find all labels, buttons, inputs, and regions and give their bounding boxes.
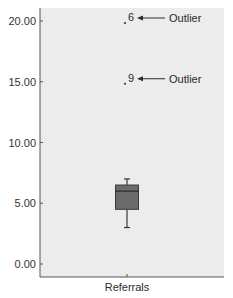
- outlier-case-label: 6: [128, 11, 134, 23]
- y-tick-label: 15.00: [8, 76, 36, 88]
- outlier-dot: [124, 83, 126, 85]
- box-plot-chart: 0.005.0010.0015.0020.00 6Outlier9Outlier…: [0, 0, 233, 298]
- y-tick-label: 20.00: [8, 15, 36, 27]
- annotation-label: Outlier: [169, 12, 202, 24]
- y-tick-label: 10.00: [8, 137, 36, 149]
- y-tick-label: 5.00: [15, 197, 36, 209]
- y-axis: 0.005.0010.0015.0020.00: [8, 8, 43, 277]
- annotation-label: Outlier: [169, 73, 202, 85]
- plot-area: [40, 8, 224, 277]
- interquartile-box: [116, 185, 139, 209]
- y-tick-label: 0.00: [15, 258, 36, 270]
- outlier-case-label: 9: [128, 72, 134, 84]
- x-axis-label: Referrals: [105, 281, 150, 293]
- outlier-dot: [124, 22, 126, 24]
